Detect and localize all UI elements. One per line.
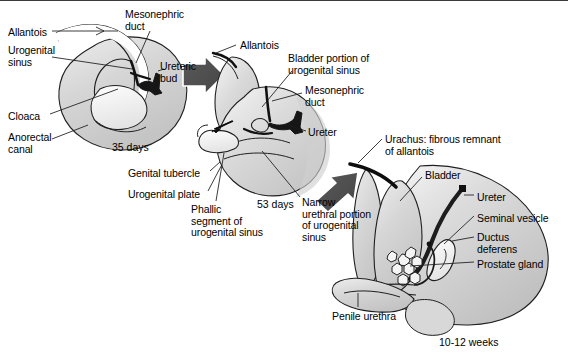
leader-urachus (358, 139, 382, 163)
label-mesonephric-duct: Mesonephric duct (125, 9, 184, 32)
label-bladder: Bladder (425, 170, 461, 182)
embryology-figure: Allantois Urogenital sinus Cloaca Anorec… (0, 0, 568, 356)
phallic-segment-53days (199, 130, 239, 152)
label-allantois-2: Allantois (240, 40, 279, 52)
label-cloaca: Cloaca (8, 111, 40, 123)
stage-label-53-days: 53 days (257, 199, 294, 211)
label-ureter: Ureter (308, 127, 337, 139)
label-allantois: Allantois (8, 27, 47, 39)
label-phallic-segment: Phallic segment of urogenital sinus (191, 204, 263, 239)
label-penile-urethra: Penile urethra (332, 311, 396, 323)
label-prostate-gland: Prostate gland (477, 259, 543, 271)
diagram-canvas (0, 1, 568, 356)
label-genital-tubercle: Genital tubercle (128, 168, 200, 180)
label-mesonephric-duct-2: Mesonephric duct (305, 85, 364, 108)
stage-label-10-12-weeks: 10-12 weeks (439, 337, 499, 349)
label-urachus: Urachus: fibrous remnant of allantois (385, 134, 500, 157)
stage-label-35-days: 35 days (112, 142, 149, 154)
label-ductus-deferens: Ductus deferens (477, 232, 517, 255)
label-bladder-portion: Bladder portion of urogenital sinus (288, 53, 369, 76)
label-ureter-2: Ureter (477, 192, 506, 204)
label-narrow-urethral: Narrow urethral portion of urogenital si… (302, 197, 371, 243)
ductus-deferens-marker (427, 242, 432, 247)
label-anorectal-canal: Anorectal canal (8, 132, 51, 155)
label-seminal-vesicle: Seminal vesicle (477, 213, 548, 225)
leader-allantois-2 (216, 45, 236, 53)
label-ureteric-bud: Ureteric bud (160, 61, 196, 84)
ureter-terminal-10w (459, 185, 466, 192)
label-urogenital-plate: Urogenital plate (128, 189, 200, 201)
label-urogenital-sinus: Urogenital sinus (8, 45, 55, 68)
